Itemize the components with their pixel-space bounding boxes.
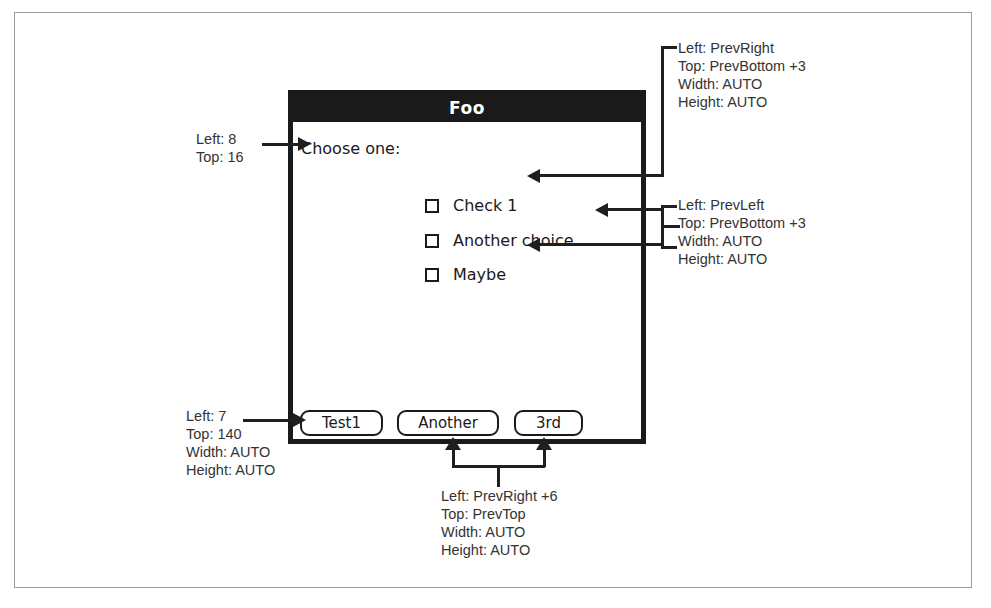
annotation-line: Left: 7 — [186, 407, 275, 425]
checkbox-icon[interactable] — [425, 268, 439, 282]
leader-line-prompt — [262, 143, 300, 146]
annotation-first-checkbox: Left: PrevRight Top: PrevBottom +3 Width… — [678, 39, 806, 111]
checkbox-label: Maybe — [453, 265, 506, 284]
annotation-following-checkboxes: Left: PrevLeft Top: PrevBottom +3 Width:… — [678, 196, 806, 268]
arrow-head-another-button-icon — [445, 437, 461, 450]
choose-one-label: Choose one: — [301, 139, 400, 158]
button-test1[interactable]: Test1 — [300, 410, 383, 436]
checkbox-row-check-1[interactable]: Check 1 — [425, 196, 517, 215]
annotation-line: Top: 140 — [186, 425, 275, 443]
arrow-head-prompt-icon — [298, 137, 311, 151]
bracket-stem-following-checkboxes — [664, 225, 680, 228]
annotation-line: Top: PrevBottom +3 — [678, 214, 806, 232]
annotation-line: Left: 8 — [196, 130, 244, 148]
dialog-title-bar: Foo — [292, 94, 642, 122]
annotation-line: Width: AUTO — [678, 75, 806, 93]
annotation-line: Height: AUTO — [441, 541, 557, 559]
leader-stem-3rd-button — [543, 447, 546, 467]
annotation-line: Width: AUTO — [678, 232, 806, 250]
dialog-window: Foo Choose one: Check 1 Another choice M… — [288, 90, 646, 444]
leader-line-maybe — [540, 243, 664, 246]
bracket-tick-bottom-following — [661, 246, 677, 249]
button-another[interactable]: Another — [397, 410, 499, 436]
arrow-head-another-choice-icon — [595, 203, 608, 217]
arrow-head-first-button-icon — [293, 413, 306, 427]
checkbox-label: Check 1 — [453, 196, 517, 215]
checkbox-label: Another choice — [453, 231, 574, 250]
dialog-body: Choose one: Check 1 Another choice Maybe… — [293, 123, 641, 439]
annotation-line: Top: PrevTop — [441, 505, 557, 523]
checkbox-icon[interactable] — [425, 199, 439, 213]
arrow-head-maybe-icon — [527, 238, 540, 252]
leader-line-first-button — [243, 419, 295, 422]
leader-stem-another-button — [452, 447, 455, 467]
annotation-line: Top: PrevBottom +3 — [678, 57, 806, 75]
annotation-line: Height: AUTO — [186, 461, 275, 479]
annotation-line: Height: AUTO — [678, 93, 806, 111]
checkbox-row-maybe[interactable]: Maybe — [425, 265, 506, 284]
annotation-following-buttons: Left: PrevRight +6 Top: PrevTop Width: A… — [441, 487, 557, 559]
annotation-first-button: Left: 7 Top: 140 Width: AUTO Height: AUT… — [186, 407, 275, 479]
annotation-line: Width: AUTO — [186, 443, 275, 461]
annotation-line: Left: PrevLeft — [678, 196, 806, 214]
annotation-line: Width: AUTO — [441, 523, 557, 541]
arrow-head-3rd-button-icon — [536, 437, 552, 450]
annotation-line: Top: 16 — [196, 148, 244, 166]
annotation-prompt-label: Left: 8 Top: 16 — [196, 130, 244, 166]
annotation-line: Height: AUTO — [678, 250, 806, 268]
arrow-head-first-checkbox-icon — [527, 169, 540, 183]
checkbox-row-another-choice[interactable]: Another choice — [425, 231, 574, 250]
annotated-dialog-figure: Foo Choose one: Check 1 Another choice M… — [0, 0, 991, 608]
bracket-spine-first-checkbox — [661, 46, 664, 177]
leader-line-another-choice — [608, 208, 664, 211]
leader-line-first-checkbox — [540, 174, 664, 177]
leader-stem-following-buttons — [497, 465, 500, 487]
button-3rd[interactable]: 3rd — [514, 410, 583, 436]
annotation-line: Left: PrevRight — [678, 39, 806, 57]
checkbox-icon[interactable] — [425, 234, 439, 248]
annotation-line: Left: PrevRight +6 — [441, 487, 557, 505]
